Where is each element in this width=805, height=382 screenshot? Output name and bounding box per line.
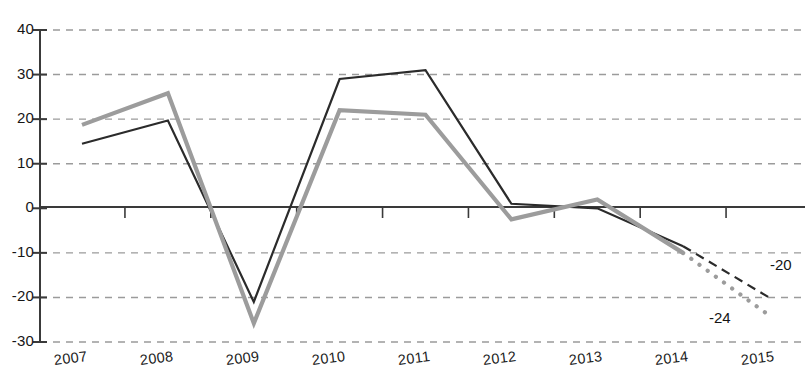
- y-axis-label: 30: [0, 65, 34, 82]
- y-axis-label: -20: [0, 287, 34, 304]
- gridlines-group: [40, 30, 805, 342]
- series-line-dark-series: [683, 246, 769, 297]
- y-axis-label: 0: [0, 198, 34, 215]
- series-layer: [82, 70, 769, 323]
- line-chart: 403020100-10-20-30 200720082009201020112…: [0, 0, 805, 382]
- y-axis-label: 40: [0, 20, 34, 37]
- y-axis-label: 20: [0, 109, 34, 126]
- y-axis-label: -10: [0, 243, 34, 260]
- endpoint-value-label: -20: [770, 256, 792, 273]
- series-line-gray-series: [683, 253, 769, 315]
- endpoint-value-label: -24: [709, 309, 731, 326]
- y-axis-label: 10: [0, 154, 34, 171]
- chart-svg: [0, 0, 805, 382]
- y-axis-label: -30: [0, 332, 34, 349]
